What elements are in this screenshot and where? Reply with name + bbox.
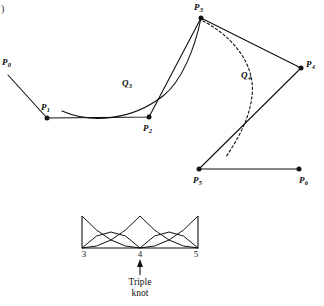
label-q3-text: Q xyxy=(122,78,129,88)
control-point-dot-p3 xyxy=(199,16,204,21)
triple-knot-caption-line2: knot xyxy=(100,288,180,299)
label-p6-sub: 6 xyxy=(305,179,308,186)
label-p3-sub: 3 xyxy=(200,6,203,13)
bspline-figure: ) P0 P1 P2 P3 P4 P5 P6 Q3 Q4 3 4 5 Tripl… xyxy=(0,0,324,306)
label-p2-sub: 2 xyxy=(149,127,152,134)
figure-canvas xyxy=(0,0,324,306)
arrow-head xyxy=(137,259,143,267)
control-point-dot-p5 xyxy=(197,167,202,172)
control-point-dots xyxy=(45,16,304,172)
label-p5: P5 xyxy=(193,176,202,185)
triple-knot-caption: Triple knot xyxy=(100,277,180,299)
label-p2-text: P xyxy=(143,123,149,133)
label-p1-sub: 1 xyxy=(47,106,50,113)
triple-knot-caption-line1: Triple xyxy=(100,277,180,288)
label-q4: Q4 xyxy=(241,71,251,80)
basis-tick-4: 4 xyxy=(130,250,150,259)
control-point-dot-p1 xyxy=(45,116,50,121)
basis-tick-3: 3 xyxy=(74,250,94,259)
label-p3: P3 xyxy=(194,3,203,12)
label-p4: P4 xyxy=(306,60,315,69)
label-p1: P1 xyxy=(41,103,50,112)
control-point-dot-p2 xyxy=(147,115,152,120)
label-q3-sub: 3 xyxy=(129,82,132,89)
curve-segment-q3 xyxy=(62,18,201,118)
control-point-dot-p6 xyxy=(297,167,302,172)
control-polygon-path xyxy=(8,18,301,169)
basis-tick-5: 5 xyxy=(186,250,206,259)
label-p6-text: P xyxy=(299,175,305,185)
label-q4-sub: 4 xyxy=(248,74,251,81)
label-p4-text: P xyxy=(306,59,312,69)
basis-function-plot xyxy=(82,216,198,275)
triple-knot-arrow xyxy=(137,259,143,275)
label-p0-sub: 0 xyxy=(8,61,11,68)
curve-segment-q4 xyxy=(203,21,252,157)
label-p0-text: P xyxy=(2,57,8,67)
label-q3: Q3 xyxy=(122,79,132,88)
label-p6: P6 xyxy=(299,176,308,185)
figure-corner-mark: ) xyxy=(1,4,4,14)
curve-q3-path xyxy=(62,18,201,118)
label-p1-text: P xyxy=(41,102,47,112)
basis-curves xyxy=(82,216,198,248)
label-p4-sub: 4 xyxy=(312,63,315,70)
curve-q4-path xyxy=(203,21,252,157)
label-p5-text: P xyxy=(193,175,199,185)
label-p2: P2 xyxy=(143,124,152,133)
label-p3-text: P xyxy=(194,2,200,12)
label-q4-text: Q xyxy=(241,70,248,80)
control-polygon xyxy=(8,18,301,169)
label-p0: P0 xyxy=(2,58,11,67)
control-point-dot-p4 xyxy=(299,66,304,71)
label-p5-sub: 5 xyxy=(199,179,202,186)
